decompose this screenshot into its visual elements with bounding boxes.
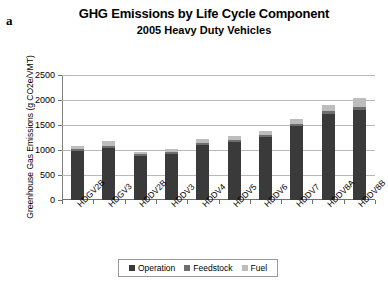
plot-area: 05001000150020002500 xyxy=(62,75,375,200)
bar-segment-fuel xyxy=(353,98,366,107)
chart-subtitle: 2005 Heavy Duty Vehicles xyxy=(34,23,374,37)
bar-group[interactable] xyxy=(353,75,366,200)
bar-stack xyxy=(259,131,272,200)
bar-group[interactable] xyxy=(259,75,272,200)
legend-item-feedstock[interactable]: Feedstock xyxy=(184,264,232,273)
bar-group[interactable] xyxy=(228,75,241,200)
bar-group[interactable] xyxy=(196,75,209,200)
y-axis-tick-label: 2000 xyxy=(25,95,55,105)
bar-stack xyxy=(228,136,241,200)
x-axis-tick xyxy=(375,200,376,204)
bar-group[interactable] xyxy=(165,75,178,200)
bar-segment-operation xyxy=(228,142,241,200)
legend-label: Feedstock xyxy=(193,264,232,273)
bar-stack xyxy=(165,149,178,200)
bar-stack xyxy=(322,105,335,200)
bar-segment-operation xyxy=(196,145,209,200)
chart-legend: OperationFeedstockFuel xyxy=(118,259,278,277)
y-axis-tick-label: 0 xyxy=(25,195,55,205)
y-axis-tick-label: 1000 xyxy=(25,145,55,155)
legend-label: Operation xyxy=(138,264,175,273)
bar-series-layer xyxy=(62,75,375,200)
bar-segment-operation xyxy=(353,110,366,200)
legend-item-fuel[interactable]: Fuel xyxy=(242,264,268,273)
legend-label: Fuel xyxy=(251,264,268,273)
bar-stack xyxy=(102,141,115,200)
bar-segment-operation xyxy=(259,137,272,200)
y-axis-tick-label: 1500 xyxy=(25,120,55,130)
y-axis-tick-label: 2500 xyxy=(25,70,55,80)
legend-swatch-icon xyxy=(242,265,248,271)
bar-group[interactable] xyxy=(134,75,147,200)
panel-letter: a xyxy=(6,14,13,27)
bar-stack xyxy=(71,146,84,200)
bar-group[interactable] xyxy=(71,75,84,200)
bar-stack xyxy=(290,119,303,200)
bar-group[interactable] xyxy=(290,75,303,200)
legend-swatch-icon xyxy=(129,265,135,271)
bar-stack xyxy=(196,139,209,200)
bar-segment-operation xyxy=(102,148,115,200)
bar-group[interactable] xyxy=(322,75,335,200)
title-block: GHG Emissions by Life Cycle Component 20… xyxy=(34,6,374,37)
legend-swatch-icon xyxy=(184,265,190,271)
bar-segment-operation xyxy=(290,126,303,200)
chart-title: GHG Emissions by Life Cycle Component xyxy=(34,6,374,21)
bar-segment-operation xyxy=(322,114,335,200)
bar-segment-operation xyxy=(71,151,84,200)
x-axis-labels: HDGV2BHDGV3HDDV2BHDDV3HDDV4HDDV5HDDV6HDD… xyxy=(62,202,375,254)
legend-item-operation[interactable]: Operation xyxy=(129,264,175,273)
y-axis-tick-label: 500 xyxy=(25,170,55,180)
